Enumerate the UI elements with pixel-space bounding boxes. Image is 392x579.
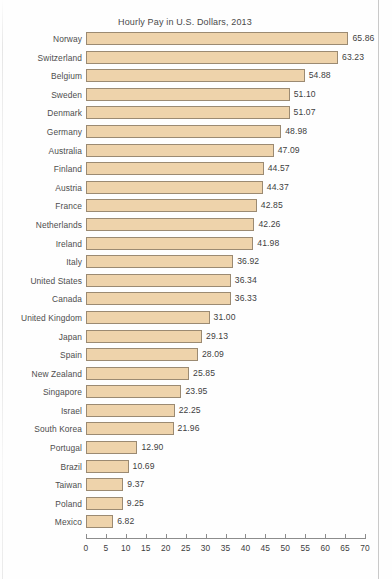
bar-fill [86,460,129,473]
bar-category-label: Taiwan [55,477,82,497]
bar-row: Japan29.13 [0,329,392,348]
bar-fill [86,348,198,361]
x-axis-tick [166,534,167,539]
x-axis-tick [226,534,227,539]
x-axis-tick [146,534,147,539]
x-axis-tick [86,534,87,539]
bar-fill [86,367,189,380]
bar-value-label: 28.09 [202,347,224,362]
bar-row: Finland44.57 [0,161,392,180]
bar-fill [86,69,305,82]
x-axis-tick [206,534,207,539]
bar [86,162,264,175]
chart-title: Hourly Pay in U.S. Dollars, 2013 [0,17,370,27]
x-axis-tick [126,534,127,539]
bar-category-label: Japan [59,329,82,349]
bar-value-label: 44.37 [267,180,289,195]
bar-fill [86,51,338,64]
bar [86,106,290,119]
bar [86,478,123,491]
bar-value-label: 48.98 [285,124,307,139]
bar [86,32,348,45]
bar [86,292,231,305]
x-axis-tick [325,534,326,539]
bar-category-label: Austria [55,180,82,200]
bar-category-label: United States [30,273,82,293]
bar-category-label: Mexico [55,514,82,534]
bar-fill [86,144,274,157]
bar-fill [86,106,290,119]
x-axis-tick [106,534,107,539]
bar [86,385,181,398]
bar [86,460,129,473]
bar [86,237,253,250]
bar-fill [86,422,174,435]
bar [86,218,254,231]
bar-row: New Zealand25.85 [0,366,392,385]
bar-value-label: 51.10 [294,87,316,102]
bar-category-label: United Kingdom [21,310,82,330]
bar [86,311,210,324]
bar-fill [86,385,181,398]
bar-value-label: 9.37 [127,477,144,492]
bar-fill [86,199,257,212]
bar-row: Taiwan9.37 [0,477,392,496]
bar-fill [86,478,123,491]
bar-value-label: 47.09 [278,143,300,158]
bar-row: Italy36.92 [0,254,392,273]
bar-row: Germany48.98 [0,124,392,143]
bar-value-label: 6.82 [117,514,134,529]
x-axis-tick [345,534,346,539]
bar-category-label: Poland [55,496,82,516]
bar-category-label: New Zealand [32,366,82,386]
bar-category-label: France [55,198,82,218]
bar-value-label: 36.34 [235,273,257,288]
bar-category-label: Spain [60,347,82,367]
x-axis-tick [305,534,306,539]
bar [86,404,175,417]
bar-value-label: 29.13 [206,329,228,344]
bar-category-label: Portugal [50,440,82,460]
bar-category-label: Switzerland [38,50,82,70]
x-axis-tick [365,534,366,539]
bar-row: Canada36.33 [0,291,392,310]
bar [86,125,281,138]
bar-row: Netherlands42.26 [0,217,392,236]
bar-row: Denmark51.07 [0,105,392,124]
x-axis-tick [245,534,246,539]
bar-value-label: 42.26 [258,217,280,232]
bar-value-label: 10.69 [133,459,155,474]
bar-value-label: 63.23 [342,50,364,65]
bar-value-label: 23.95 [185,384,207,399]
bar-fill [86,32,348,45]
x-axis-tick-label: 70 [353,543,377,553]
bar-category-label: Denmark [47,105,82,125]
bar-category-label: Sweden [51,87,82,107]
bar-fill [86,441,137,454]
bar [86,348,198,361]
bar-row: Ireland41.98 [0,236,392,255]
bar-value-label: 9.25 [127,496,144,511]
bar-value-label: 36.33 [235,291,257,306]
bar [86,441,137,454]
bar-fill [86,292,231,305]
bar [86,181,263,194]
bar-fill [86,237,253,250]
bar [86,422,174,435]
bar-value-label: 22.25 [179,403,201,418]
bar-fill [86,181,263,194]
bar-value-label: 36.92 [237,254,259,269]
bar-value-label: 54.88 [309,68,331,83]
bar [86,199,257,212]
bar-row: Switzerland63.23 [0,50,392,69]
bar-value-label: 21.96 [178,421,200,436]
bar-value-label: 12.90 [141,440,163,455]
bar-fill [86,497,123,510]
bar-row: Portugal12.90 [0,440,392,459]
bar-row: Sweden51.10 [0,87,392,106]
bar [86,69,305,82]
bar-value-label: 25.85 [193,366,215,381]
bar [86,274,231,287]
x-axis-tick [285,534,286,539]
bar-fill [86,404,175,417]
